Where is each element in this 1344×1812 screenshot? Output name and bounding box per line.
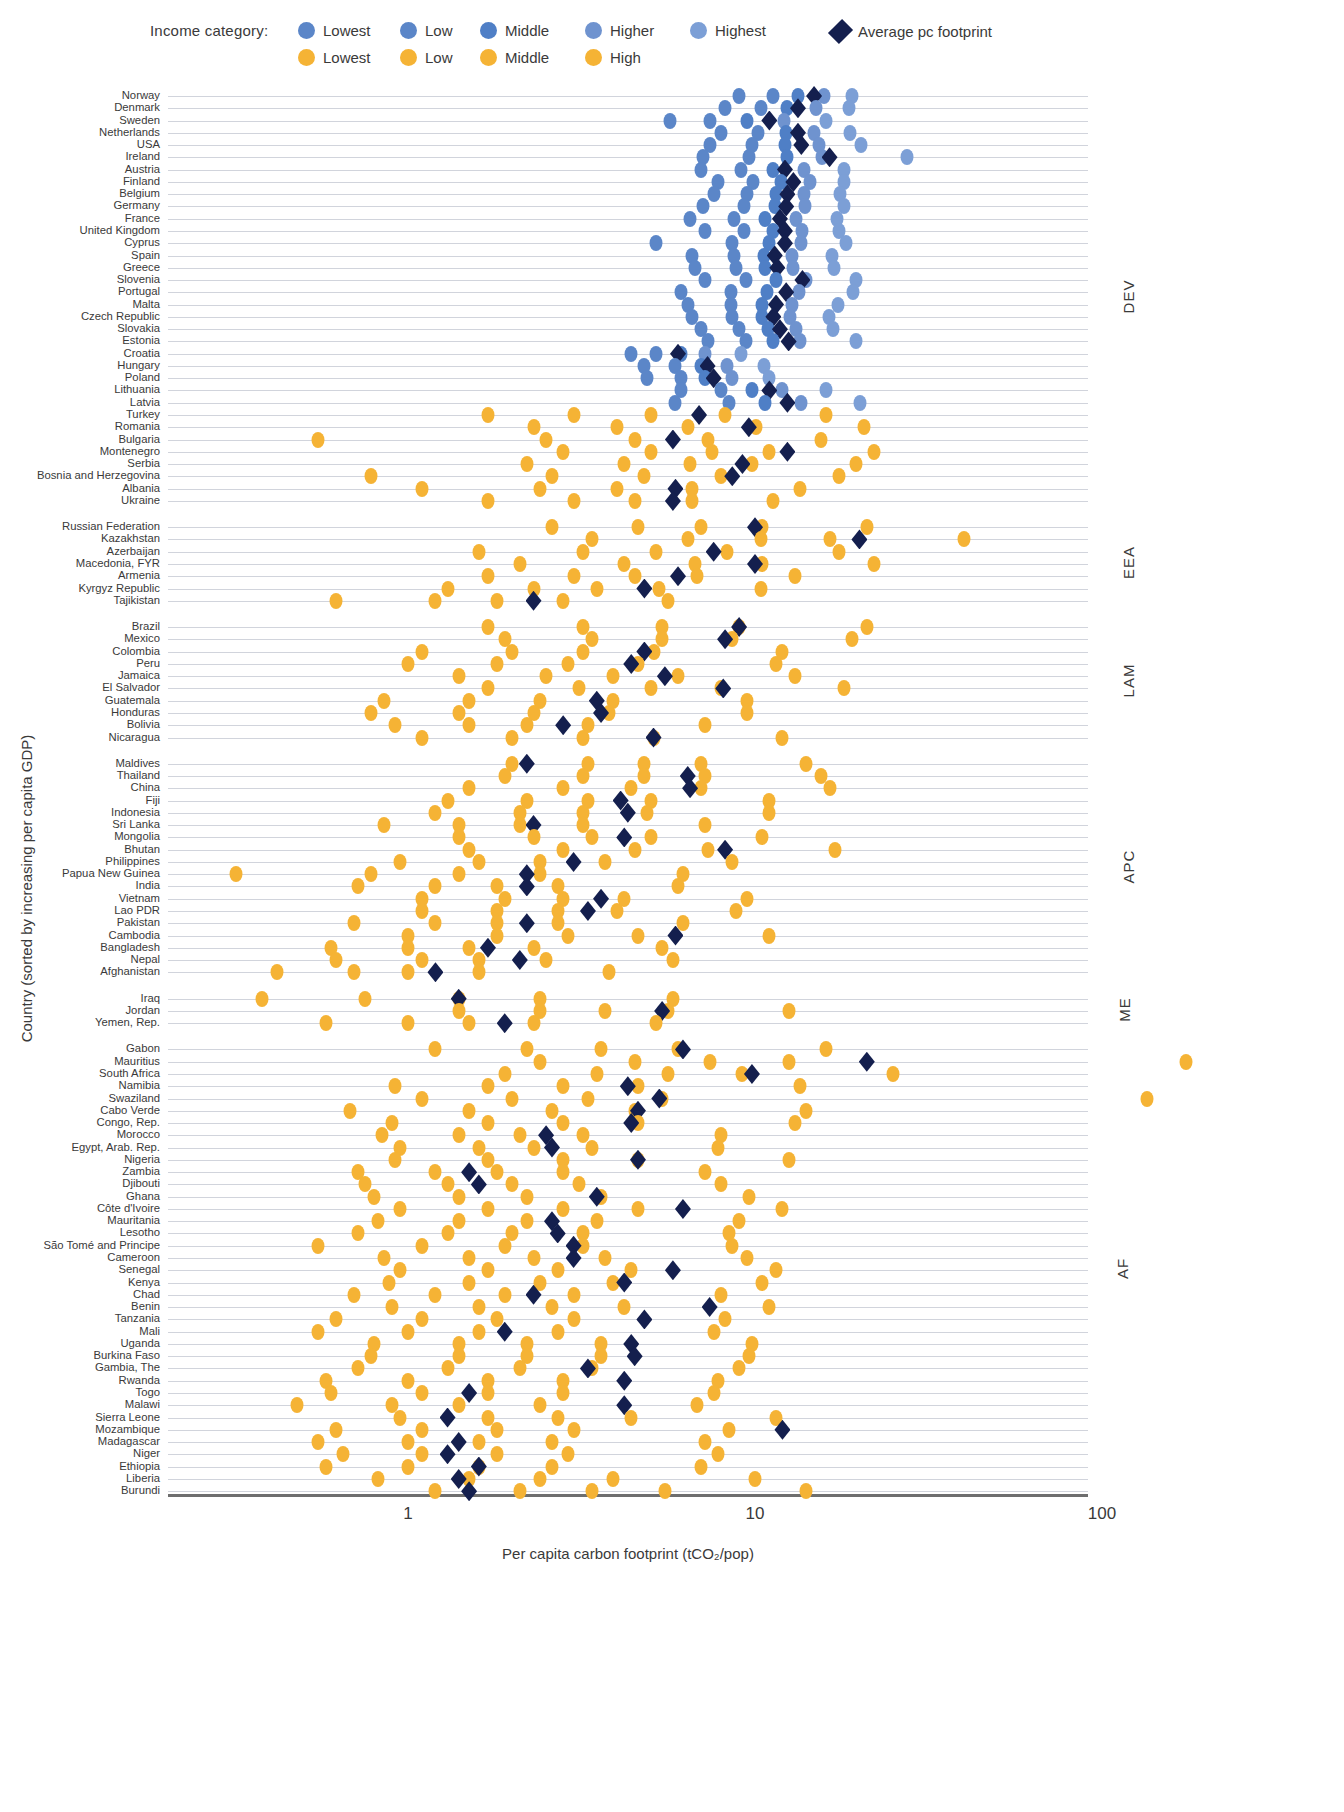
data-point (394, 1201, 407, 1217)
data-point (402, 940, 415, 956)
data-point (782, 1054, 795, 1070)
data-point (520, 1041, 533, 1057)
country-tick-label: Madagascar (98, 1436, 160, 1447)
data-point (540, 432, 553, 448)
grid-row-line (168, 1011, 1088, 1012)
data-point (352, 1360, 365, 1376)
data-point (734, 346, 747, 362)
data-point (733, 88, 746, 104)
grid-row-line (168, 268, 1088, 269)
data-point (348, 915, 361, 931)
country-tick-label: Cyprus (124, 238, 160, 249)
data-point (429, 1483, 442, 1499)
data-point (329, 593, 342, 609)
average-footprint-marker (566, 852, 582, 872)
x-tick-label: 1 (403, 1504, 412, 1524)
grid-row-line (168, 764, 1088, 765)
data-point (577, 768, 590, 784)
country-tick-label: Papua New Guinea (62, 869, 160, 880)
data-point (741, 113, 754, 129)
country-tick-label: Bolivia (127, 720, 160, 731)
average-footprint-marker (636, 1309, 652, 1329)
country-tick-label: Burkina Faso (93, 1351, 160, 1362)
data-point (707, 1385, 720, 1401)
data-point (695, 162, 708, 178)
grid-row-line (168, 1221, 1088, 1222)
data-point (618, 1299, 631, 1315)
average-footprint-marker (675, 1199, 691, 1219)
data-point (472, 544, 485, 560)
average-footprint-marker (657, 666, 673, 686)
data-point (567, 407, 580, 423)
data-point (394, 854, 407, 870)
data-point (690, 1397, 703, 1413)
country-tick-label: Azerbaijan (107, 546, 160, 557)
average-footprint-marker (616, 1273, 632, 1293)
data-point (567, 1311, 580, 1327)
data-point (416, 1311, 429, 1327)
data-point (590, 581, 603, 597)
grid-row-line (168, 862, 1088, 863)
data-point (711, 1446, 724, 1462)
country-tick-label: Philippines (105, 856, 160, 867)
data-point (610, 419, 623, 435)
data-point (586, 631, 599, 647)
data-point (402, 1015, 415, 1031)
grid-row-line (168, 1160, 1088, 1161)
data-point (666, 952, 679, 968)
data-point (557, 444, 570, 460)
grid-row-line (168, 1295, 1088, 1296)
grid-row-line (168, 1430, 1088, 1431)
data-point (490, 1164, 503, 1180)
grid-row-line (168, 1074, 1088, 1075)
data-point (733, 1213, 746, 1229)
data-point (741, 1250, 754, 1266)
grid-row-line (168, 476, 1088, 477)
grid-row-line (168, 1233, 1088, 1234)
data-point (711, 1140, 724, 1156)
data-point (741, 891, 754, 907)
data-point (291, 1397, 304, 1413)
country-tick-label: Guatemala (105, 695, 160, 706)
country-tick-label: Bosnia and Herzegovina (37, 471, 160, 482)
average-footprint-marker (471, 1174, 487, 1194)
data-point (641, 805, 654, 821)
data-point (452, 1213, 465, 1229)
country-tick-label: Côte d'Ivoire (97, 1203, 160, 1214)
data-point (416, 903, 429, 919)
data-point (650, 544, 663, 560)
data-point (490, 1422, 503, 1438)
country-tick-label: Sweden (119, 115, 160, 126)
average-footprint-marker (706, 542, 722, 562)
data-point (402, 964, 415, 980)
data-point (329, 1311, 342, 1327)
data-point (520, 1189, 533, 1205)
data-point (754, 581, 767, 597)
data-point (586, 1140, 599, 1156)
grid-row-line (168, 972, 1088, 973)
data-point (441, 581, 454, 597)
data-point (402, 1459, 415, 1475)
country-tick-label: Colombia (112, 646, 160, 657)
data-point (348, 1287, 361, 1303)
data-point (742, 1189, 755, 1205)
data-point (1180, 1054, 1193, 1070)
average-footprint-marker (589, 1187, 605, 1207)
data-point (695, 519, 708, 535)
country-tick-label: Turkey (126, 409, 160, 420)
country-tick-label: Norway (122, 90, 160, 101)
data-point (452, 705, 465, 721)
data-point (567, 1422, 580, 1438)
average-footprint-marker (779, 442, 795, 462)
country-tick-label: Benin (131, 1301, 160, 1312)
data-point (770, 1262, 783, 1278)
country-tick-label: South Africa (99, 1068, 160, 1079)
region-label-me: ME (1112, 1001, 1137, 1018)
average-footprint-marker (555, 715, 571, 735)
data-point (520, 456, 533, 472)
data-point (664, 113, 677, 129)
data-point (527, 829, 540, 845)
country-tick-label: Honduras (111, 707, 160, 718)
average-footprint-marker (461, 1481, 477, 1501)
scatter-plot: Country (sorted by increasing per capita… (0, 0, 1344, 1812)
